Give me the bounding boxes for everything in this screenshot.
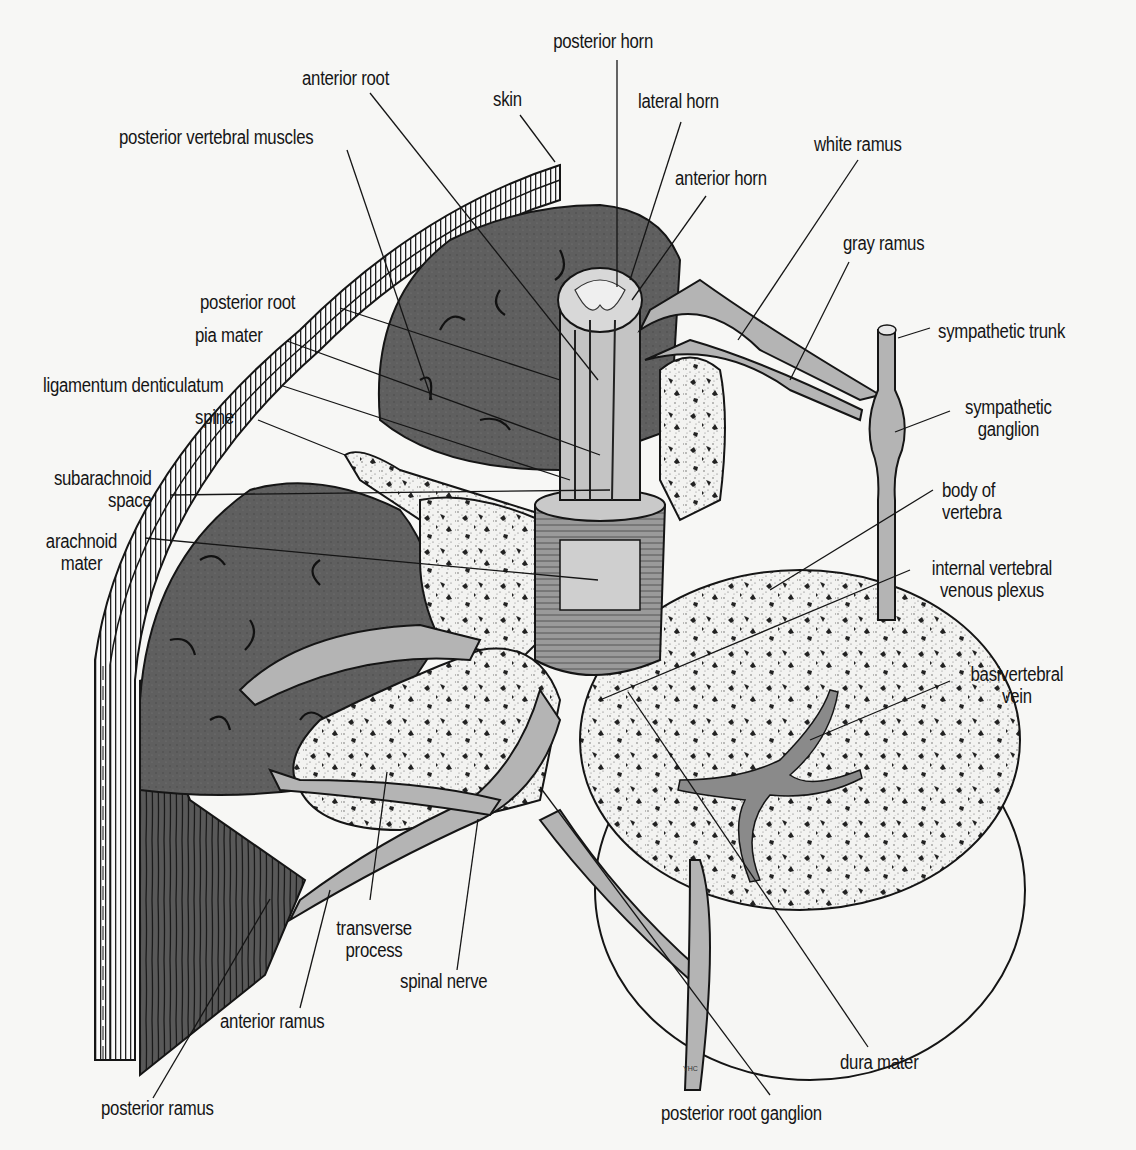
label-dura-mater: dura mater <box>840 1051 919 1073</box>
label-posterior-horn: posterior horn <box>553 30 653 52</box>
label-white-ramus: white ramus <box>814 133 902 155</box>
illustrator-signature: YHC <box>683 1065 698 1072</box>
articular-process <box>660 358 725 521</box>
label-posterior-ramus: posterior ramus <box>101 1097 214 1119</box>
label-ligamentum-denticulatum: ligamentum denticulatum <box>43 374 224 396</box>
label-spinal-nerve: spinal nerve <box>400 970 487 992</box>
label-spine: spine <box>195 406 234 428</box>
label-sympathetic-ganglion: sympatheticganglion <box>965 396 1052 440</box>
label-posterior-vertebral-muscles: posterior vertebral muscles <box>119 126 313 148</box>
label-sympathetic-trunk: sympathetic trunk <box>938 320 1065 342</box>
label-pia-mater: pia mater <box>195 324 263 346</box>
sympathetic-trunk-shape <box>870 325 905 620</box>
label-lateral-horn: lateral horn <box>638 90 719 112</box>
label-posterior-root: posterior root <box>200 291 295 313</box>
label-anterior-ramus: anterior ramus <box>220 1010 325 1032</box>
label-internal-vertebral-venous-plexus: internal vertebralvenous plexus <box>932 557 1052 601</box>
label-body-of-vertebra: body ofvertebra <box>942 479 1001 523</box>
label-transverse-process: transverseprocess <box>336 917 412 961</box>
label-arachnoid-mater: arachnoidmater <box>46 530 117 574</box>
label-posterior-root-ganglion: posterior root ganglion <box>661 1102 822 1124</box>
label-anterior-root: anterior root <box>302 67 389 89</box>
label-gray-ramus: gray ramus <box>843 232 924 254</box>
dura-mater-tube <box>535 489 665 675</box>
label-skin: skin <box>493 88 522 110</box>
label-basivertebral-vein: basivertebralvein <box>971 663 1064 707</box>
label-subarachnoid-space: subarachnoidspace <box>54 467 152 511</box>
spinal-cord <box>558 268 642 500</box>
label-anterior-horn: anterior horn <box>675 167 767 189</box>
